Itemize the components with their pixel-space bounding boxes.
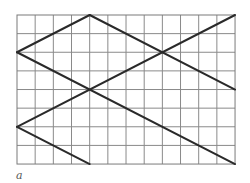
grid-lines xyxy=(17,15,235,164)
figure-caption: a xyxy=(16,169,23,182)
grid-diagram xyxy=(0,0,250,183)
